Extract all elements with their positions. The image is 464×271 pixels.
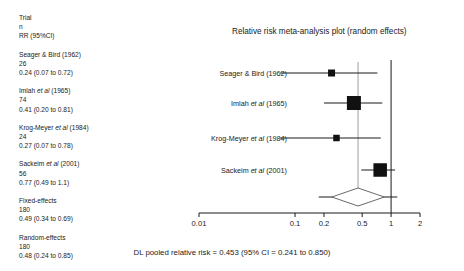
legend-entry-rr: 0.41 (0.20 to 0.81) xyxy=(19,105,149,114)
legend-entry-n: 180 xyxy=(19,205,149,214)
legend-header-n: n xyxy=(19,22,149,31)
legend-entry-rr: 0.24 (0.07 to 0.72) xyxy=(19,68,149,77)
plot-title: Relative risk meta-analysis plot (random… xyxy=(232,27,407,36)
study-estimate-box xyxy=(347,96,361,110)
legend-header-trial: Trial xyxy=(19,13,149,22)
legend-entry-seager-bird: Seager & Bird (1962) 26 0.24 (0.07 to 0.… xyxy=(19,50,149,78)
legend-entry-rr: 0.27 (0.07 to 0.78) xyxy=(19,141,149,150)
legend-entry-name: Fixed-effects xyxy=(19,196,149,205)
legend-entry-rr: 0.49 (0.34 to 0.69) xyxy=(19,214,149,223)
legend-entry-rr: 0.77 (0.49 to 1.1) xyxy=(19,178,149,187)
legend-header-rr: RR (95%CI) xyxy=(19,31,149,40)
legend-entry-n: 24 xyxy=(19,132,149,141)
legend-entry-n: 56 xyxy=(19,169,149,178)
legend-entry-name: Imlah et al (1965) xyxy=(19,86,149,95)
x-axis-tick-label: 0.2 xyxy=(319,219,330,228)
legend-entry-random-effects: Random-effects 180 0.48 (0.24 to 0.85) xyxy=(19,233,149,261)
legend-entry-rr: 0.48 (0.24 to 0.85) xyxy=(19,251,149,260)
legend-entry-n: 180 xyxy=(19,242,149,251)
x-axis-tick-label: 0.01 xyxy=(192,219,207,228)
pooled-estimate-diamond xyxy=(332,188,385,206)
study-estimate-box xyxy=(328,70,335,77)
legend-entry-sackeim: Sackeim et al (2001) 56 0.77 (0.49 to 1.… xyxy=(19,159,149,187)
legend-entry-name: Seager & Bird (1962) xyxy=(19,50,149,59)
legend-entry-n: 26 xyxy=(19,59,149,68)
x-axis-tick-label: 0.1 xyxy=(290,219,301,228)
legend-entry-n: 74 xyxy=(19,95,149,104)
x-axis-tick-label: 0.5 xyxy=(357,219,368,228)
pooled-result-caption: DL pooled relative risk = 0.453 (95% CI … xyxy=(134,248,331,257)
trial-legend-column: Trial n RR (95%CI) Seager & Bird (1962) … xyxy=(19,13,149,269)
study-estimate-box xyxy=(333,135,340,142)
legend-entry-name: Random-effects xyxy=(19,233,149,242)
x-axis-tick-label: 2 xyxy=(418,219,422,228)
study-estimate-box xyxy=(373,163,387,177)
x-axis-tick-label: 1 xyxy=(389,219,393,228)
legend-entry-name: Sackeim et al (2001) xyxy=(19,159,149,168)
legend-entry-name: Krog-Meyer et al (1984) xyxy=(19,123,149,132)
legend-header: Trial n RR (95%CI) xyxy=(19,13,149,41)
legend-entry-imlah: Imlah et al (1965) 74 0.41 (0.20 to 0.81… xyxy=(19,86,149,114)
legend-entry-fixed-effects: Fixed-effects 180 0.49 (0.34 to 0.69) xyxy=(19,196,149,224)
legend-entry-krog-meyer: Krog-Meyer et al (1984) 24 0.27 (0.07 to… xyxy=(19,123,149,151)
